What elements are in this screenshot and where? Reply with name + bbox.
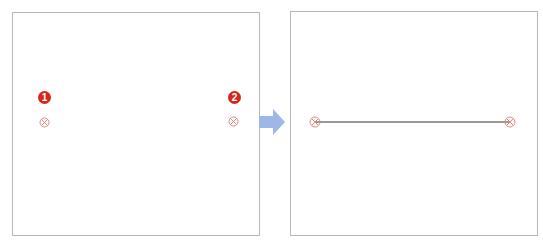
crosshair-marker-icon xyxy=(40,118,49,127)
crosshair-marker-icon xyxy=(229,117,238,126)
arrow-right-icon xyxy=(259,109,285,135)
diagram-graphics xyxy=(0,0,543,243)
